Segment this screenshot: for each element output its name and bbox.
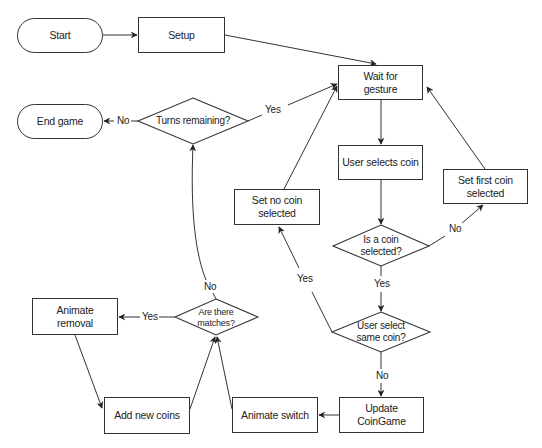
node-animate-switch: Animate switch	[232, 397, 318, 433]
node-user-selects-label: User selects coin	[342, 156, 419, 169]
decision-isselected-label: Is a coin selected?	[350, 232, 412, 260]
node-set-no-label: Set no coin selected	[245, 194, 309, 220]
node-setup: Setup	[138, 17, 225, 53]
flowchart-canvas: Start Setup Wait for gesture User select…	[0, 0, 542, 448]
edge-setno-wait	[284, 86, 337, 189]
edge-isselected-no-a	[429, 236, 445, 246]
node-add-coins-label: Add new coins	[114, 409, 180, 422]
node-set-no-coin: Set no coin selected	[234, 189, 320, 225]
edge-label-samecoin-yes: Yes	[296, 273, 314, 285]
node-animate-switch-label: Animate switch	[241, 409, 309, 422]
edge-label-samecoin-no: No	[375, 370, 389, 382]
decision-samecoin-label: User select same coin?	[346, 318, 416, 346]
node-start-label: Start	[49, 29, 70, 42]
edge-label-turns-no: No	[116, 115, 130, 127]
edge-samecoin-setno	[279, 227, 299, 268]
decision-turns-label: Turns remaining?	[155, 106, 231, 136]
edge-animateremoval-addcoins	[75, 335, 102, 408]
edge-turns-yes-a	[248, 115, 262, 121]
node-wait-for-gesture: Wait for gesture	[338, 65, 423, 100]
node-set-first-label: Set first coin selected	[450, 174, 521, 200]
node-end-label: End game	[37, 115, 83, 128]
edge-isselected-setfirst	[461, 205, 483, 224]
edge-label-turns-yes: Yes	[264, 104, 282, 116]
node-setup-label: Setup	[168, 29, 194, 42]
node-start: Start	[17, 18, 103, 53]
edge-addcoins-matches	[190, 337, 215, 409]
edge-animateswitch-matches	[217, 337, 232, 409]
edge-samecoin-yes-a	[312, 292, 332, 332]
decision-matches-label: Are there matches?	[190, 305, 242, 331]
edge-setfirst-wait	[427, 87, 485, 169]
node-animate-removal: Animate removal	[32, 298, 118, 335]
node-wait-label: Wait for gesture	[353, 70, 408, 96]
node-add-new-coins: Add new coins	[104, 397, 190, 434]
edge-label-isselected-yes: Yes	[373, 278, 391, 290]
edge-label-matches-yes: Yes	[141, 311, 159, 323]
edge-turns-wait	[288, 84, 337, 105]
edge-setup-wait	[225, 35, 376, 64]
node-end-game: End game	[17, 104, 103, 139]
node-user-selects-coin: User selects coin	[338, 145, 423, 180]
node-animate-removal-label: Animate removal	[51, 304, 99, 330]
edge-matches-turns	[192, 145, 206, 280]
edge-matches-no-a	[213, 293, 216, 299]
edge-label-matches-no: No	[203, 281, 217, 293]
node-set-first-coin: Set first coin selected	[443, 169, 528, 204]
node-update-coingame: Update CoinGame	[339, 397, 424, 433]
edge-label-isselected-no: No	[448, 223, 462, 235]
node-update-label: Update CoinGame	[354, 402, 409, 428]
